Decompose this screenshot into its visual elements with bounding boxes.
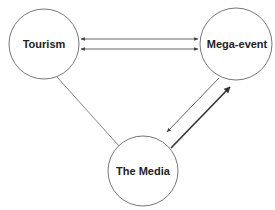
node-tourism: Tourism xyxy=(9,9,79,79)
relationship-diagram: Tourism Mega-event The Media xyxy=(0,0,275,210)
node-label-tourism: Tourism xyxy=(23,38,66,50)
node-label-media: The Media xyxy=(116,165,171,177)
node-mega-event: Mega-event xyxy=(200,8,272,80)
edge-megaevent-to-media xyxy=(167,78,219,132)
edge-media-to-megaevent xyxy=(171,87,230,148)
node-label-mega-event: Mega-event xyxy=(207,38,268,50)
node-media: The Media xyxy=(108,136,178,206)
edge-tourism-media xyxy=(57,77,119,146)
